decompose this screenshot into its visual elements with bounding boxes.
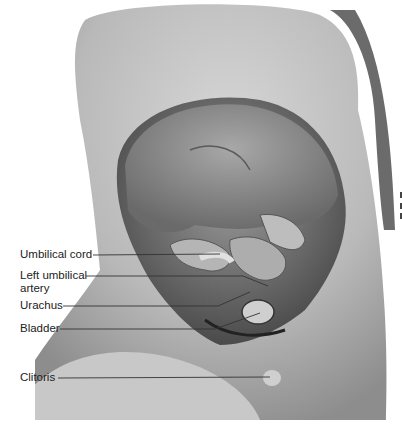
label-left-umbilical-artery: Left umbilical artery: [20, 269, 87, 295]
label-urachus: Urachus: [20, 299, 63, 312]
specimen-photo: [0, 0, 402, 439]
label-bladder: Bladder: [20, 322, 60, 335]
anatomy-figure: Umbilical cord Left umbilical artery Ura…: [0, 0, 402, 439]
label-umbilical-cord: Umbilical cord: [20, 248, 92, 261]
label-clitoris: Clitoris: [20, 371, 55, 384]
